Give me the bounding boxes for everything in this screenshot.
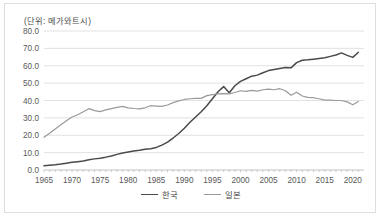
x-tick-label: 2005 <box>259 176 278 185</box>
x-axis-tick-labels: 1965197019751980198519901995200020052010… <box>35 176 362 185</box>
chart-legend: 한국 일본 <box>0 188 381 200</box>
x-tick-label: 1995 <box>203 176 222 185</box>
legend-item-korea[interactable]: 한국 <box>141 188 178 200</box>
legend-label-korea: 한국 <box>162 188 178 200</box>
x-tick-label: 2020 <box>344 176 363 185</box>
x-tick-label: 2010 <box>288 176 307 185</box>
x-tick-label: 1985 <box>147 176 166 185</box>
chart-plot-wrapper: 0.010.020.030.040.050.060.070.080.0 1965… <box>0 0 381 218</box>
series-line-japan <box>44 89 358 137</box>
data-series-group <box>44 52 358 166</box>
x-tick-label: 1970 <box>63 176 82 185</box>
x-tick-label: 1965 <box>35 176 54 185</box>
gridlines-group <box>44 31 364 172</box>
legend-swatch-korea <box>141 194 158 195</box>
y-axis-tick-labels: 0.010.020.030.040.050.060.070.080.0 <box>23 27 39 175</box>
x-tick-label: 1975 <box>91 176 110 185</box>
x-tick-label: 1980 <box>119 176 138 185</box>
y-tick-label: 0.0 <box>28 166 40 175</box>
y-tick-label: 60.0 <box>23 62 39 71</box>
y-tick-label: 20.0 <box>23 131 39 140</box>
y-tick-label: 10.0 <box>23 149 39 158</box>
x-tick-label: 1990 <box>175 176 194 185</box>
legend-swatch-japan <box>204 194 221 195</box>
legend-label-japan: 일본 <box>225 188 241 200</box>
y-tick-label: 30.0 <box>23 114 39 123</box>
y-tick-label: 70.0 <box>23 44 39 53</box>
y-tick-label: 50.0 <box>23 79 39 88</box>
y-tick-label: 40.0 <box>23 97 39 106</box>
legend-item-japan[interactable]: 일본 <box>204 188 241 200</box>
x-tick-label: 2015 <box>316 176 335 185</box>
x-tick-label: 2000 <box>231 176 250 185</box>
line-chart-svg: 0.010.020.030.040.050.060.070.080.0 1965… <box>0 0 381 218</box>
y-tick-label: 80.0 <box>23 27 39 36</box>
